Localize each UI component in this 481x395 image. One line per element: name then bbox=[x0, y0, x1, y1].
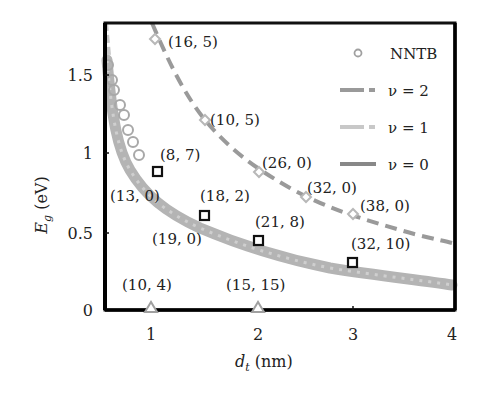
svg-text:(26, 0): (26, 0) bbox=[262, 154, 312, 172]
svg-text:(32, 0): (32, 0) bbox=[307, 179, 357, 197]
svg-text:(8, 7): (8, 7) bbox=[160, 146, 200, 164]
x-axis-label: dt (nm) bbox=[235, 352, 293, 374]
svg-text:(19, 0): (19, 0) bbox=[152, 230, 202, 248]
x-tick-1: 1 bbox=[146, 325, 156, 344]
svg-text:(18, 2): (18, 2) bbox=[200, 187, 250, 205]
x-tick-3: 3 bbox=[348, 325, 358, 344]
svg-text:(38, 0): (38, 0) bbox=[360, 197, 410, 215]
legend: NNTB ν = 2 ν = 1 ν = 0 bbox=[340, 45, 437, 174]
legend-nntb-label: NNTB bbox=[390, 45, 437, 63]
y-tick-15: 1.5 bbox=[68, 66, 93, 85]
legend-nntb-icon bbox=[355, 50, 362, 57]
band-gap-chart: 1 2 3 4 0 0.5 1 1.5 dt (nm) Eg (eV) (16,… bbox=[0, 0, 481, 395]
legend-nu2-label: ν = 2 bbox=[388, 82, 429, 100]
svg-text:(32, 10): (32, 10) bbox=[351, 235, 410, 253]
svg-text:(10, 4): (10, 4) bbox=[122, 276, 172, 294]
y-tick-05: 0.5 bbox=[68, 224, 93, 243]
svg-text:(10, 5): (10, 5) bbox=[210, 111, 260, 129]
y-axis-label: Eg (eV) bbox=[32, 176, 54, 234]
y-tick-0: 0 bbox=[83, 301, 93, 320]
svg-text:(16, 5): (16, 5) bbox=[168, 33, 218, 51]
legend-nu1-label: ν = 1 bbox=[388, 119, 429, 137]
svg-text:(15, 15): (15, 15) bbox=[226, 276, 285, 294]
x-tick-4: 4 bbox=[447, 325, 457, 344]
svg-text:(13, 0): (13, 0) bbox=[110, 187, 160, 205]
y-tick-1: 1 bbox=[83, 144, 93, 163]
x-tick-2: 2 bbox=[253, 325, 263, 344]
legend-nu0-label: ν = 0 bbox=[388, 156, 429, 174]
svg-text:(21, 8): (21, 8) bbox=[255, 213, 305, 231]
